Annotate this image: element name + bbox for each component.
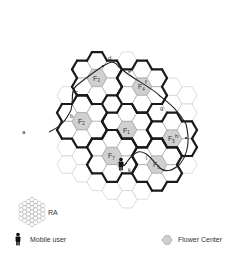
mobile-user-legend-label: Mobile user (30, 236, 66, 243)
path-label-h: h (175, 133, 178, 139)
path-label-d: d (108, 55, 111, 61)
hex-network-diagram: F1F2F3F4F5F6F7 abcdefghijk (0, 0, 241, 259)
path-label-j: j (145, 154, 147, 160)
path-label-g: g (160, 105, 163, 111)
flower-center-legend-icon (162, 236, 172, 245)
mobile-user-legend-icon (16, 233, 21, 246)
ra-legend-icon (19, 197, 45, 226)
path-label-c: c (75, 89, 78, 95)
flower-center-legend-label: Flower Center (178, 236, 222, 243)
path-label-i: i (184, 153, 185, 159)
path-label-a: a (22, 129, 26, 135)
ra-legend-label: RA (48, 209, 58, 216)
